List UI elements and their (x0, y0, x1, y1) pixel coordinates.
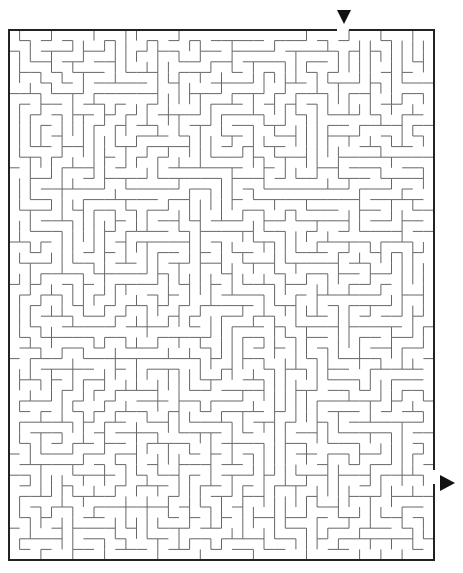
entrance-arrow-icon (337, 10, 351, 24)
maze-walls (9, 30, 434, 560)
exit-arrow-icon (440, 475, 455, 491)
maze-grid[interactable] (0, 0, 463, 573)
